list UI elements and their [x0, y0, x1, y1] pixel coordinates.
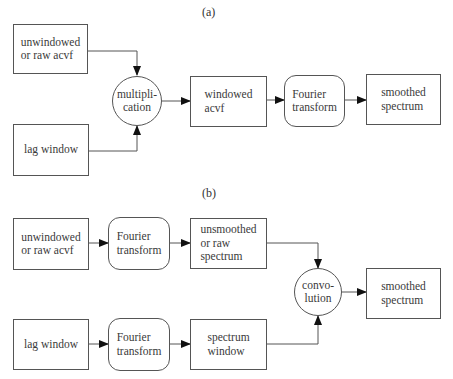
panel-b-label: (b)	[202, 186, 216, 201]
node-smoothed-spectrum-a: smoothed spectrum	[366, 74, 441, 125]
edge-raw-acvf-to-multiplication	[87, 51, 137, 75]
node-smoothed-spectrum-b: smoothed spectrum	[366, 268, 441, 319]
node-label: convo- lution	[302, 279, 334, 306]
node-fourier-transform-b2: Fourier transform	[108, 318, 170, 371]
node-label: Fourier transform	[117, 331, 162, 358]
node-label: Fourier transform	[292, 88, 337, 115]
node-label: unsmoothed or raw spectrum	[200, 223, 256, 264]
node-fourier-transform-a: Fourier transform	[284, 75, 345, 127]
node-raw-spectrum: unsmoothed or raw spectrum	[190, 218, 267, 269]
node-label: lag window	[24, 338, 78, 352]
edge-spectrum-window-to-convolution	[267, 316, 318, 344]
node-label: lag window	[24, 143, 78, 157]
node-label: smoothed spectrum	[381, 280, 426, 307]
node-raw-acvf-b: unwindowed or raw acvf	[13, 218, 89, 270]
node-windowed-acvf: windowed acvf	[190, 76, 267, 127]
node-lag-window-a: lag window	[13, 124, 89, 176]
node-label: windowed acvf	[205, 88, 253, 115]
node-spectrum-window: spectrum window	[190, 319, 267, 370]
node-convolution: convo- lution	[294, 268, 342, 316]
node-label: Fourier transform	[117, 230, 162, 257]
node-label: unwindowed or raw acvf	[21, 36, 80, 63]
node-multiplication: multipli- cation	[112, 76, 162, 126]
node-label: spectrum window	[207, 331, 249, 358]
panel-a-label: (a)	[202, 5, 215, 20]
node-lag-window-b: lag window	[13, 319, 89, 370]
node-raw-acvf-a: unwindowed or raw acvf	[13, 24, 88, 74]
edge-lag-window-to-multiplication	[88, 126, 137, 151]
node-label: multipli- cation	[117, 88, 157, 115]
node-label: smoothed spectrum	[381, 86, 426, 113]
edge-raw-spectrum-to-convolution	[267, 243, 318, 268]
node-fourier-transform-b1: Fourier transform	[108, 217, 170, 270]
node-label: unwindowed or raw acvf	[21, 231, 80, 258]
